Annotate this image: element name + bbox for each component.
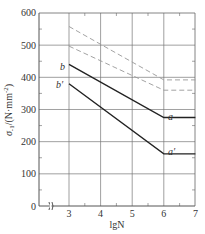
grid: [39, 13, 195, 206]
curve-label-b: b: [60, 61, 65, 72]
y-tick-label: 400: [21, 72, 36, 83]
x-tick-labels: 34567: [67, 208, 198, 219]
y-tick-label: 600: [21, 7, 36, 18]
x-axis-title: lgN: [110, 219, 125, 230]
curve-label-a-prime: a′: [168, 146, 176, 157]
y-tick-label: 200: [21, 136, 36, 147]
y-tick-label: 100: [21, 168, 36, 179]
y-tick-label: 500: [21, 40, 36, 51]
x-tick-label: 3: [67, 208, 72, 219]
fatigue-chart: 0100200300400500600 34567 lgN σ-1/(N·mm-…: [0, 0, 205, 234]
y-tick-labels: 0100200300400500600: [21, 7, 36, 211]
y-axis-title: σ-1/(N·mm-2): [2, 84, 16, 136]
x-tick-label: 4: [98, 208, 103, 219]
y-tick-label: 300: [21, 104, 36, 115]
x-tick-label: 7: [193, 208, 198, 219]
x-tick-label: 6: [161, 208, 166, 219]
curve-label-b-prime: b′: [56, 79, 64, 90]
curve-label-a: a: [168, 111, 173, 122]
y-tick-label: 0: [31, 201, 36, 212]
x-tick-label: 5: [130, 208, 135, 219]
